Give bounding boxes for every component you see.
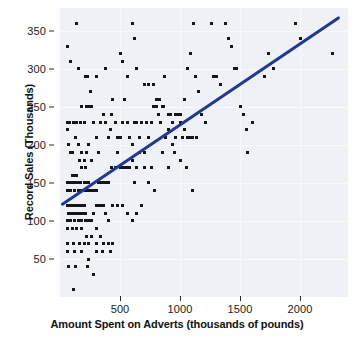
- x-axis-tick-label: 500: [111, 303, 130, 315]
- scatter-chart-figure: 50100150200250300350 500100015002000 Amo…: [0, 0, 354, 342]
- x-axis-tick-mark: [240, 296, 241, 301]
- x-axis-tick-mark: [180, 296, 181, 301]
- x-axis-tick-mark: [300, 296, 301, 301]
- x-axis-title: Amount Spent on Adverts (thousands of po…: [0, 318, 354, 330]
- y-axis-title: Record Sales (Thousands): [23, 37, 35, 267]
- x-axis-tick-mark: [120, 296, 121, 301]
- x-axis-tick-label: 1000: [168, 303, 193, 315]
- x-axis: 500100015002000: [0, 0, 354, 342]
- x-axis-tick-label: 2000: [288, 303, 313, 315]
- x-axis-tick-label: 1500: [228, 303, 253, 315]
